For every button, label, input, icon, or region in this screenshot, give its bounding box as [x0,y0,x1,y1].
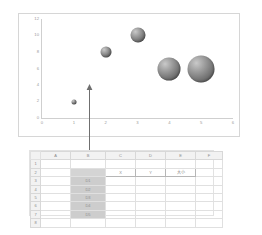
y-axis-tick: 0 [37,116,39,120]
bubble-chart-panel[interactable]: 0 2 4 6 8 10 12 0 1 2 3 4 5 6 [18,13,240,137]
cell-c2-x-header[interactable]: X [106,168,136,176]
spreadsheet-grid[interactable]: A B C D E F 1 2 X Y 大小 3 D1 [30,151,223,228]
table-row: 7 D5 [31,210,223,218]
y-axis-tick: 6 [37,66,39,70]
cell-d4[interactable] [136,185,166,193]
row-header-3[interactable]: 3 [31,177,41,185]
cell-b2-series-header[interactable] [71,168,106,176]
bubble-d2 [100,46,111,57]
row-header-4[interactable]: 4 [31,185,41,193]
column-header-d[interactable]: D [136,152,166,160]
cell-a5[interactable] [41,194,71,202]
table-row: 4 D2 [31,185,223,193]
table-row: 8 [31,219,223,227]
cell-c8[interactable] [106,219,136,227]
cell-d8[interactable] [136,219,166,227]
cell-b6-label[interactable]: D4 [71,202,106,210]
cell-d1[interactable] [136,160,166,168]
cell-b4-label[interactable]: D2 [71,185,106,193]
cell-c1[interactable] [106,160,136,168]
cell-c5[interactable] [106,194,136,202]
bubble-d1 [71,99,76,104]
cell-a7[interactable] [41,210,71,218]
y-axis-tick: 12 [34,17,39,21]
row-header-6[interactable]: 6 [31,202,41,210]
x-axis-tick: 4 [168,121,170,125]
cell-e5[interactable] [166,194,196,202]
cell-d3[interactable] [136,177,166,185]
row-header-2[interactable]: 2 [31,168,41,176]
y-axis-tick: 4 [37,83,39,87]
select-all-corner[interactable] [31,152,41,160]
row-header-7[interactable]: 7 [31,210,41,218]
table-row: 1 [31,160,223,168]
column-header-row: A B C D E F [31,152,223,160]
cell-d5[interactable] [136,194,166,202]
y-axis-tick: 10 [34,33,39,37]
table-row: 5 D3 [31,194,223,202]
bubble-d4 [158,57,181,80]
row-header-1[interactable]: 1 [31,160,41,168]
column-header-c[interactable]: C [106,152,136,160]
cell-f7[interactable] [196,210,223,218]
row-header-8[interactable]: 8 [31,219,41,227]
x-axis-tick: 6 [232,121,234,125]
cell-a2[interactable] [41,168,71,176]
cell-a8[interactable] [41,219,71,227]
cell-f4[interactable] [196,185,223,193]
y-axis-tick: 2 [37,99,39,103]
cell-e6[interactable] [166,202,196,210]
cell-b3-label[interactable]: D1 [71,177,106,185]
cell-d2-y-header[interactable]: Y [136,168,166,176]
cell-d7[interactable] [136,210,166,218]
cell-e4[interactable] [166,185,196,193]
cell-a3[interactable] [41,177,71,185]
cell-e2-size-header[interactable]: 大小 [166,168,196,176]
cell-f6[interactable] [196,202,223,210]
cell-f2[interactable] [196,168,223,176]
column-header-b[interactable]: B [71,152,106,160]
cell-f8[interactable] [196,219,223,227]
cell-c4[interactable] [106,185,136,193]
cell-e8[interactable] [166,219,196,227]
x-axis-tick: 2 [104,121,106,125]
cell-c6[interactable] [106,202,136,210]
cell-f5[interactable] [196,194,223,202]
x-axis-tick: 3 [136,121,138,125]
x-axis-tick: 0 [41,121,43,125]
cell-b8[interactable] [71,219,106,227]
cell-e7[interactable] [166,210,196,218]
spreadsheet-panel[interactable]: A B C D E F 1 2 X Y 大小 3 D1 [29,150,214,216]
row-header-5[interactable]: 5 [31,194,41,202]
cell-e3[interactable] [166,177,196,185]
table-row: 6 D4 [31,202,223,210]
cell-b7-label[interactable]: D5 [71,210,106,218]
column-header-f[interactable]: F [196,152,223,160]
cell-a6[interactable] [41,202,71,210]
cell-d6[interactable] [136,202,166,210]
cell-a4[interactable] [41,185,71,193]
chart-plot-area: 0 2 4 6 8 10 12 0 1 2 3 4 5 6 [41,19,233,119]
bubble-d5 [188,55,215,82]
table-row: 3 D1 [31,177,223,185]
cell-b1[interactable] [71,160,106,168]
x-axis-tick: 5 [200,121,202,125]
y-axis-tick: 8 [37,50,39,54]
cell-a1[interactable] [41,160,71,168]
bubble-d3 [130,28,145,43]
cell-c7[interactable] [106,210,136,218]
cell-c3[interactable] [106,177,136,185]
cell-f1[interactable] [196,160,223,168]
column-header-a[interactable]: A [41,152,71,160]
table-row: 2 X Y 大小 [31,168,223,176]
cell-f3[interactable] [196,177,223,185]
cell-b5-label[interactable]: D3 [71,194,106,202]
x-axis-tick: 1 [73,121,75,125]
column-header-e[interactable]: E [166,152,196,160]
cell-e1[interactable] [166,160,196,168]
